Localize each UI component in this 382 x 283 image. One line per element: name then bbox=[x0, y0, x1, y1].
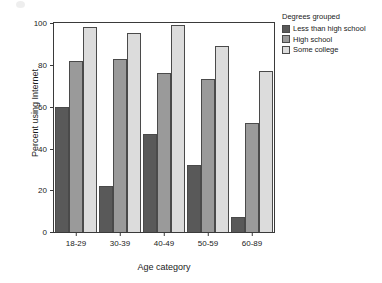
plot-area: 02040608010018-2930-3940-4950-5960-89 bbox=[53, 22, 275, 233]
y-axis-tick-label: 0 bbox=[43, 228, 50, 237]
plot-inner: 02040608010018-2930-3940-4950-5960-89 bbox=[54, 23, 274, 232]
legend-items: Less than high schoolHigh schoolSome col… bbox=[282, 24, 382, 54]
x-axis-tick: 50-59 bbox=[198, 232, 218, 248]
bar bbox=[245, 123, 259, 232]
y-axis-tick-label: 40 bbox=[38, 145, 50, 154]
legend-swatch bbox=[282, 25, 290, 33]
x-axis-tick-label: 30-39 bbox=[110, 239, 130, 248]
bar bbox=[69, 61, 83, 232]
bar-group bbox=[142, 23, 186, 232]
y-axis-tick: 20 bbox=[38, 181, 54, 199]
x-axis-tick: 60-89 bbox=[242, 232, 262, 248]
bar-group bbox=[230, 23, 274, 232]
legend-item: Less than high school bbox=[282, 24, 382, 33]
y-axis-tick: 80 bbox=[38, 56, 54, 74]
bar bbox=[113, 59, 127, 232]
bar-chart-figure: Percent using Internet 02040608010018-29… bbox=[0, 0, 382, 283]
y-axis-tick-mark bbox=[50, 23, 54, 24]
y-axis-tick: 100 bbox=[34, 14, 54, 32]
bar-group bbox=[54, 23, 98, 232]
bar bbox=[99, 186, 113, 232]
bar bbox=[231, 217, 245, 232]
scan-artifact bbox=[16, 1, 25, 8]
x-axis-tick-label: 18-29 bbox=[66, 239, 86, 248]
x-axis-title: Age category bbox=[53, 262, 275, 272]
x-axis-tick: 18-29 bbox=[66, 232, 86, 248]
x-axis-tick-label: 60-89 bbox=[242, 239, 262, 248]
legend-swatch bbox=[282, 46, 290, 54]
x-axis-tick-mark bbox=[76, 232, 77, 236]
bar bbox=[171, 25, 185, 232]
bar bbox=[127, 33, 141, 232]
legend: Degrees grouped Less than high schoolHig… bbox=[282, 12, 382, 56]
bar-group bbox=[98, 23, 142, 232]
y-axis-tick: 0 bbox=[43, 223, 54, 241]
legend-label: High school bbox=[293, 35, 332, 44]
legend-label: Some college bbox=[293, 45, 338, 54]
bar bbox=[215, 46, 229, 232]
x-axis-tick-mark bbox=[252, 232, 253, 236]
legend-swatch bbox=[282, 35, 290, 43]
y-axis-tick-label: 20 bbox=[38, 186, 50, 195]
x-axis-tick: 30-39 bbox=[110, 232, 130, 248]
legend-item: High school bbox=[282, 35, 382, 44]
y-axis-tick-mark bbox=[50, 65, 54, 66]
bar bbox=[83, 27, 97, 232]
x-axis-tick-label: 50-59 bbox=[198, 239, 218, 248]
y-axis-tick-label: 100 bbox=[34, 19, 50, 28]
y-axis-tick-label: 60 bbox=[38, 103, 50, 112]
y-axis-tick-mark bbox=[50, 149, 54, 150]
y-axis-tick-label: 80 bbox=[38, 61, 50, 70]
x-axis-tick: 40-49 bbox=[154, 232, 174, 248]
bar bbox=[55, 107, 69, 232]
y-axis-tick: 40 bbox=[38, 139, 54, 157]
y-axis-tick-mark bbox=[50, 107, 54, 108]
x-axis-tick-mark bbox=[120, 232, 121, 236]
bar bbox=[201, 79, 215, 232]
bar bbox=[187, 165, 201, 232]
y-axis-tick-mark bbox=[50, 190, 54, 191]
legend-item: Some college bbox=[282, 45, 382, 54]
x-axis-tick-mark bbox=[164, 232, 165, 236]
x-axis-tick-mark bbox=[208, 232, 209, 236]
y-axis-tick: 60 bbox=[38, 98, 54, 116]
legend-title: Degrees grouped bbox=[282, 12, 382, 21]
legend-label: Less than high school bbox=[293, 24, 366, 33]
y-axis-tick-mark bbox=[50, 232, 54, 233]
bar bbox=[157, 73, 171, 232]
x-axis-tick-label: 40-49 bbox=[154, 239, 174, 248]
bar bbox=[143, 134, 157, 232]
bar-group bbox=[186, 23, 230, 232]
bar-groups bbox=[54, 23, 274, 232]
bar bbox=[259, 71, 273, 232]
